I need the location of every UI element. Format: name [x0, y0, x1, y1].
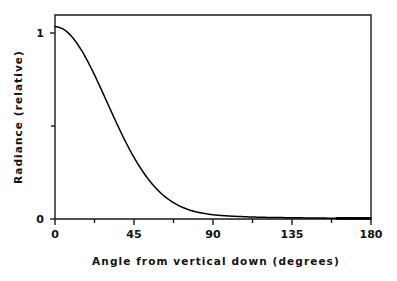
chart-background	[0, 0, 397, 281]
x-tick-label-180: 180	[360, 228, 383, 241]
x-tick-label-0: 0	[51, 228, 59, 241]
y-tick-label-1: 1	[36, 27, 44, 40]
x-tick-label-135: 135	[281, 228, 304, 241]
x-axis-title: Angle from vertical down (degrees)	[92, 255, 340, 267]
radiance-angle-line-chart: 1 0 0 45 90 135 180 Angle from vertical …	[0, 0, 397, 281]
chart-figure: 1 0 0 45 90 135 180 Angle from vertical …	[0, 0, 397, 281]
x-tick-label-90: 90	[205, 228, 221, 241]
y-axis-title: Radiance (relative)	[12, 50, 24, 184]
y-tick-label-0: 0	[36, 213, 44, 226]
x-tick-label-45: 45	[126, 228, 141, 241]
